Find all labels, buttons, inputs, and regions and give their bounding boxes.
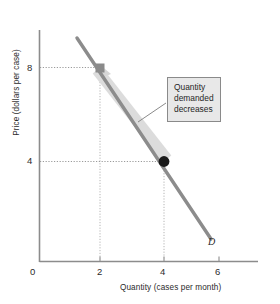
- y-tick-label-8: 8: [27, 62, 32, 73]
- annotation-line-2: demanded: [174, 93, 214, 104]
- y-tick-label-4: 4: [27, 155, 32, 166]
- x-tick-label-4: 4: [160, 266, 165, 277]
- annotation-line-1: Quantity: [174, 82, 214, 93]
- annotation-callout: Quantity demanded decreases: [167, 77, 221, 122]
- x-tick-label-2: 2: [97, 266, 102, 277]
- x-tick-label-0: 0: [30, 266, 35, 277]
- x-tick-label-6: 6: [215, 266, 220, 277]
- y-axis-title: Price (dollars per case): [12, 33, 21, 153]
- x-axis-title: Quantity (cases per month): [120, 283, 221, 292]
- annotation-leader-line: [138, 103, 166, 122]
- annotation-line-3: decreases: [174, 104, 214, 115]
- data-point-upper: [96, 64, 105, 73]
- demand-curve-label: D: [208, 236, 215, 247]
- plot-area: [0, 0, 280, 304]
- demand-curve-figure: Price (dollars per case) Quantity (cases…: [0, 0, 280, 304]
- data-point-lower: [159, 156, 170, 167]
